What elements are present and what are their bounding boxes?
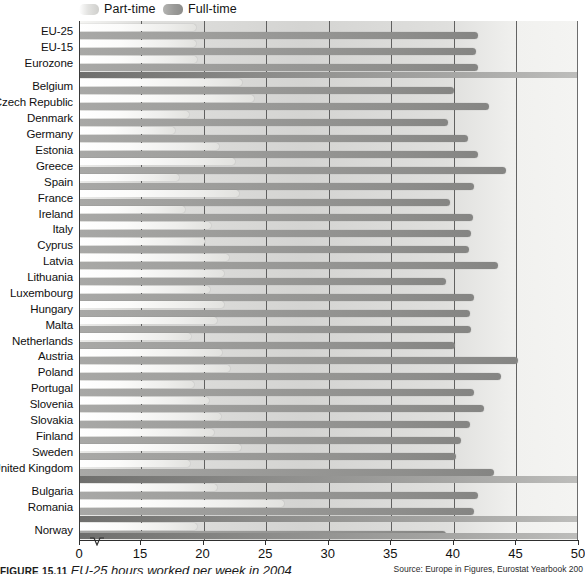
axis-tick-40 (453, 540, 454, 545)
bar-part-time (80, 484, 217, 491)
axis-tick-45 (515, 540, 516, 545)
legend-swatch-full-time-icon (163, 4, 183, 15)
bar-full-time (80, 310, 470, 317)
axis-tick-label-15: 15 (133, 547, 147, 560)
bar-row (80, 158, 577, 174)
category-label-eu-15: EU-15 (41, 42, 73, 54)
category-label-poland: Poland (38, 367, 73, 379)
bar-part-time (80, 500, 284, 507)
bar-row (80, 126, 577, 142)
axis-tick-15 (140, 540, 141, 545)
category-label-bulgaria: Bulgaria (32, 486, 73, 498)
bar-full-time (80, 421, 470, 428)
bar-row (80, 24, 577, 40)
bar-row (80, 428, 577, 444)
bar-part-time (80, 254, 229, 261)
category-label-luxembourg: Luxembourg (10, 288, 73, 300)
bar-part-time (80, 413, 221, 420)
bar-row (80, 253, 577, 269)
bar-row (80, 79, 577, 95)
plot-area (79, 21, 578, 540)
bar-part-time (80, 190, 239, 197)
bar-full-time (80, 389, 474, 396)
axis-tick-30 (328, 540, 329, 545)
bar-part-time (80, 95, 254, 102)
bar-part-time (80, 79, 242, 86)
category-label-united-kingdom: United Kingdom (0, 463, 73, 475)
bar-part-time (80, 238, 205, 245)
bar-row (80, 39, 577, 55)
legend-label-full-time: Full-time (188, 2, 237, 16)
bar-row (80, 301, 577, 317)
bar-row (80, 333, 577, 349)
category-label-slovakia: Slovakia (30, 415, 73, 427)
bar-full-time (80, 32, 478, 39)
bar-full-time (80, 453, 456, 460)
bar-part-time (80, 381, 194, 388)
bar-row (80, 222, 577, 238)
group-separator-band (80, 476, 577, 483)
category-label-italy: Italy (52, 224, 73, 236)
category-label-malta: Malta (45, 320, 73, 332)
caption-figure-number: FIGURE 15.11 (0, 566, 67, 574)
bar-full-time (80, 262, 498, 269)
category-label-austria: Austria (38, 351, 73, 363)
bar-row (80, 206, 577, 222)
bar-part-time (80, 397, 209, 404)
bar-full-time (80, 492, 478, 499)
group-separator-band (80, 516, 577, 523)
axis-tick-label-25: 25 (258, 547, 272, 560)
axis-tick-label-35: 35 (383, 547, 397, 560)
category-label-eurozone: Eurozone (25, 58, 73, 70)
bottom-band (80, 533, 577, 540)
bar-full-time (80, 294, 474, 301)
bar-row (80, 483, 577, 499)
category-label-greece: Greece (36, 161, 73, 173)
category-label-portugal: Portugal (31, 383, 73, 395)
bar-part-time (80, 158, 235, 165)
bar-part-time (80, 523, 197, 530)
bar-full-time (80, 199, 450, 206)
axis-tick-0 (79, 540, 80, 545)
bar-part-time (80, 301, 224, 308)
legend-label-part-time: Part-time (104, 2, 156, 16)
bar-part-time (80, 333, 191, 340)
bar-full-time (80, 151, 478, 158)
bar-full-time (80, 135, 468, 142)
category-label-sweden: Sweden (32, 447, 73, 459)
bar-row (80, 142, 577, 158)
legend-swatch-part-time-icon (79, 4, 99, 15)
category-label-netherlands: Netherlands (12, 336, 73, 348)
bar-full-time (80, 342, 455, 349)
bar-row (80, 110, 577, 126)
category-label-norway: Norway (35, 525, 73, 537)
category-label-romania: Romania (28, 502, 73, 514)
bar-full-time (80, 326, 471, 333)
bar-row (80, 269, 577, 285)
bar-full-time (80, 508, 474, 515)
bar-row (80, 285, 577, 301)
bar-full-time (80, 87, 454, 94)
bar-row (80, 444, 577, 460)
category-label-estonia: Estonia (35, 145, 73, 157)
bar-row (80, 174, 577, 190)
caption-left: FIGURE 15.11 EU-25 hours worked per week… (0, 563, 292, 574)
bar-full-time (80, 48, 476, 55)
category-label-spain: Spain (44, 177, 73, 189)
bar-part-time (80, 349, 222, 356)
category-axis-labels: EU-25EU-15EurozoneBelgiumCzech RepublicD… (0, 21, 76, 540)
axis-tick-20 (203, 540, 204, 545)
bar-full-time (80, 405, 484, 412)
bar-part-time (80, 143, 219, 150)
caption-title: EU-25 hours worked per week in 2004 (71, 563, 292, 574)
bar-full-time (80, 183, 474, 190)
bar-full-time (80, 246, 469, 253)
bar-row (80, 412, 577, 428)
figure-caption: FIGURE 15.11 EU-25 hours worked per week… (0, 563, 585, 574)
axis-tick-25 (265, 540, 266, 545)
bar-row (80, 365, 577, 381)
bar-row (80, 396, 577, 412)
bar-row (80, 499, 577, 515)
legend-item-full-time: Full-time (163, 1, 237, 17)
chart-legend: Part-time Full-time (0, 0, 585, 18)
